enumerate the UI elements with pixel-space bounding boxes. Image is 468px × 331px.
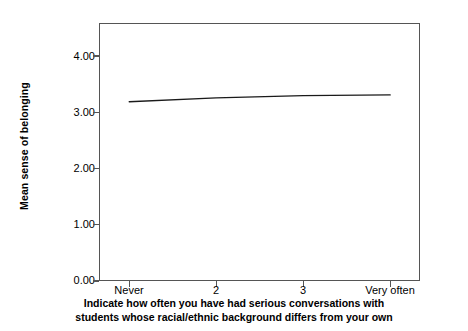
chart-figure: Mean sense of belonging 4.00 3.00 2.00 1… xyxy=(0,0,468,331)
y-axis-title: Mean sense of belonging xyxy=(18,56,30,236)
y-tick-mark-2 xyxy=(93,168,99,169)
y-tick-mark-0 xyxy=(93,280,99,281)
y-tick-label-1: 1.00 xyxy=(51,218,95,230)
y-tick-label-2: 2.00 xyxy=(51,162,95,174)
y-tick-label-3: 3.00 xyxy=(51,106,95,118)
y-tick-mark-4 xyxy=(93,55,99,56)
plot-area xyxy=(99,23,420,281)
x-axis-title: Indicate how often you have had serious … xyxy=(0,296,468,324)
x-axis-title-line-2: students whose racial/ethnic background … xyxy=(0,310,468,324)
y-tick-label-4: 4.00 xyxy=(51,50,95,62)
x-axis-title-line-1: Indicate how often you have had serious … xyxy=(0,296,468,310)
y-tick-mark-3 xyxy=(93,112,99,113)
y-tick-mark-1 xyxy=(93,224,99,225)
